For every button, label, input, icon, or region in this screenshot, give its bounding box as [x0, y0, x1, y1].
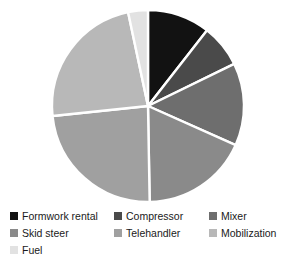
- legend-item-formwork-rental[interactable]: Formwork rental: [10, 210, 114, 222]
- legend-swatch-icon: [10, 246, 18, 254]
- legend-row: Fuel: [10, 244, 292, 261]
- legend-item-mixer[interactable]: Mixer: [209, 210, 295, 222]
- legend-swatch-icon: [114, 212, 122, 220]
- legend-swatch-icon: [10, 212, 18, 220]
- legend-item-mobilization[interactable]: Mobilization: [209, 227, 295, 239]
- legend-item-label: Compressor: [126, 210, 183, 222]
- legend-item-label: Mixer: [221, 210, 247, 222]
- chart-legend: Formwork rental Compressor Mixer Skid st…: [0, 210, 296, 270]
- pie-slice[interactable]: [53, 106, 150, 202]
- legend-row: Formwork rental Compressor Mixer: [10, 210, 292, 227]
- legend-item-telehandler[interactable]: Telehandler: [114, 227, 209, 239]
- pie-plot-area: [0, 0, 296, 212]
- legend-item-fuel[interactable]: Fuel: [10, 244, 114, 256]
- legend-item-label: Formwork rental: [22, 210, 98, 222]
- pie-svg: [0, 0, 296, 212]
- legend-swatch-icon: [114, 229, 122, 237]
- legend-item-label: Mobilization: [221, 227, 276, 239]
- legend-item-label: Skid steer: [22, 227, 69, 239]
- legend-item-label: Fuel: [22, 244, 42, 256]
- legend-swatch-icon: [209, 229, 217, 237]
- legend-item-skid-steer[interactable]: Skid steer: [10, 227, 114, 239]
- legend-row: Skid steer Telehandler Mobilization: [10, 227, 292, 244]
- legend-swatch-icon: [10, 229, 18, 237]
- pie-chart-figure: Formwork rental Compressor Mixer Skid st…: [0, 0, 296, 270]
- legend-swatch-icon: [209, 212, 217, 220]
- legend-item-compressor[interactable]: Compressor: [114, 210, 209, 222]
- legend-item-label: Telehandler: [126, 227, 180, 239]
